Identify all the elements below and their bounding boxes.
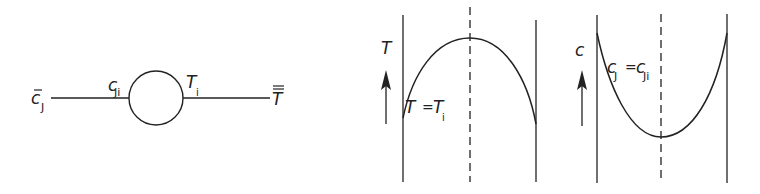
up-arrow-icon xyxy=(381,70,391,124)
svg-text:T: T xyxy=(405,97,417,117)
svg-text:J: J xyxy=(613,70,617,83)
diagram-canvas: c J c Ji T i T T T xyxy=(0,0,760,194)
svg-text:c: c xyxy=(31,88,41,108)
particle-circle xyxy=(129,71,183,125)
bulk-concentration-label: c J xyxy=(31,88,44,114)
concentration-profile-plot: c c J = c Ji xyxy=(575,14,727,183)
surface-temperature-label: T i xyxy=(186,72,199,98)
surface-concentration-label: c Ji xyxy=(108,75,120,99)
concentration-curve xyxy=(597,33,727,137)
particle-schematic: c J c Ji T i T xyxy=(31,71,284,125)
temperature-boundary-label: T = T i xyxy=(405,97,445,123)
svg-text:Ji: Ji xyxy=(113,86,120,99)
svg-text:T: T xyxy=(272,89,284,109)
svg-text:Ji: Ji xyxy=(642,70,649,83)
svg-text:i: i xyxy=(442,112,445,123)
temperature-profile-plot: T T = T i xyxy=(381,7,536,182)
svg-text:i: i xyxy=(196,87,199,98)
svg-text:J: J xyxy=(40,101,44,114)
bulk-temperature-label: T xyxy=(272,86,284,109)
concentration-boundary-label: c J = c Ji xyxy=(607,57,649,83)
svg-text:=: = xyxy=(422,99,434,115)
concentration-axis-label: c xyxy=(575,40,585,60)
svg-text:=: = xyxy=(625,59,637,75)
up-arrow-icon xyxy=(577,70,587,126)
temperature-axis-label: T xyxy=(381,38,393,58)
